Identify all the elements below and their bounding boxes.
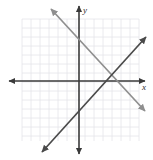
y-axis-label: y	[82, 5, 87, 15]
grid-lines	[22, 19, 139, 141]
descending-line	[51, 9, 145, 111]
coordinate-plane-svg: x y	[0, 0, 153, 160]
graph-figure: x y	[0, 0, 153, 160]
x-axis-label: x	[141, 82, 146, 92]
